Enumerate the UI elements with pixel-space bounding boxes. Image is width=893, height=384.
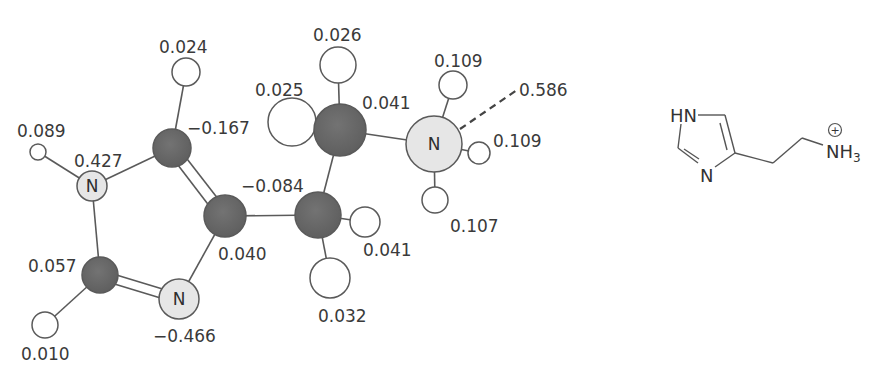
carbon-atom xyxy=(153,129,191,167)
hydrogen-atom xyxy=(439,71,467,99)
charge-label: 0.040 xyxy=(218,244,267,264)
charge-label: 0.041 xyxy=(362,93,411,113)
hydrogen-atom xyxy=(30,144,46,160)
histamine-diagram: N N N 0.427 0.089 −0.167 0.024 0.040 −0.… xyxy=(0,0,893,384)
charge-label: 0.109 xyxy=(434,51,483,71)
carbon-atom xyxy=(82,257,118,293)
ring-n-label: N xyxy=(700,165,713,186)
amine-h: H xyxy=(839,141,853,162)
ring-nh-label: HN xyxy=(670,105,697,126)
charge-label: 0.010 xyxy=(21,344,70,364)
hydrogen-atom xyxy=(310,258,350,298)
charge-label: 0.041 xyxy=(363,240,412,260)
hydrogen-atom xyxy=(172,58,200,86)
atom-symbol-nam: N xyxy=(428,134,441,154)
charge-label: −0.466 xyxy=(153,326,216,346)
carbon-atom xyxy=(314,104,366,156)
hydrogen-atom xyxy=(350,207,380,237)
skeletal-formula xyxy=(678,115,842,167)
hydrogen-atom xyxy=(32,312,58,338)
carbon-atom xyxy=(204,195,246,237)
hbond-dashed xyxy=(460,90,517,129)
atom-symbol-n3: N xyxy=(173,289,186,309)
charge-label: 0.427 xyxy=(74,151,123,171)
charge-label: 0.024 xyxy=(159,37,208,57)
hydrogen-atom xyxy=(468,142,490,164)
charge-label: 0.586 xyxy=(519,80,568,100)
charge-label: 0.025 xyxy=(255,80,304,100)
chain-bond xyxy=(735,153,773,163)
ring-bond xyxy=(715,153,735,167)
carbon-atom xyxy=(295,192,341,238)
charge-label: 0.026 xyxy=(313,25,362,45)
amine-h-count: 3 xyxy=(853,151,861,165)
hydrogen-atom xyxy=(320,47,356,83)
charge-label: 0.089 xyxy=(17,121,66,141)
amine-charge-sign: + xyxy=(830,124,839,137)
charge-label: 0.107 xyxy=(450,216,499,236)
ring-bond-inner xyxy=(720,123,727,150)
hydrogen-atom xyxy=(268,98,316,146)
charge-label: −0.167 xyxy=(187,118,250,138)
amine-n: N xyxy=(826,141,839,162)
charge-label: 0.032 xyxy=(318,306,367,326)
chain-bond xyxy=(802,138,823,145)
ring-bond xyxy=(678,124,681,148)
hydrogen-atom xyxy=(422,187,448,213)
charge-label: 0.057 xyxy=(28,256,77,276)
atom-symbol-n1: N xyxy=(86,176,99,196)
amine-group-label: NH3 xyxy=(826,141,861,165)
charge-label: −0.084 xyxy=(241,176,304,196)
chain-bond xyxy=(773,138,802,163)
charge-label: 0.109 xyxy=(493,131,542,151)
